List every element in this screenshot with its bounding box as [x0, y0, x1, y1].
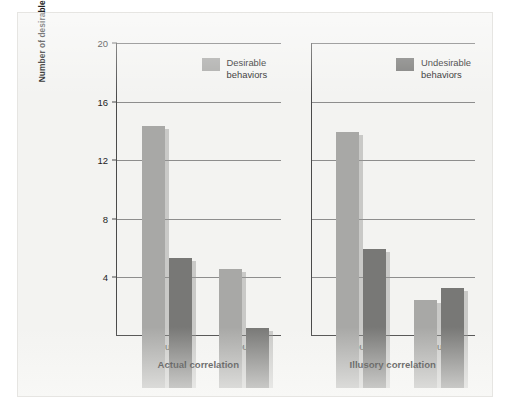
- y-tick-label-12: 12: [97, 155, 108, 166]
- gridline-20: [312, 43, 476, 44]
- panel-container: Group AGroup BActual correlationDesirabl…: [116, 43, 475, 388]
- y-axis-title: Number of desirable and undesirable beha…: [36, 0, 76, 83]
- plot-area: 48121620 Group AGroup BActual correlatio…: [90, 43, 475, 388]
- bar-fill: [142, 126, 165, 388]
- bar-fill: [246, 328, 269, 388]
- bar-group-a-desirable: [336, 132, 359, 388]
- panel-actual: Group AGroup BActual correlationDesirabl…: [116, 43, 281, 388]
- y-tick-label-4: 4: [103, 272, 108, 283]
- bar-group-a-desirable: [142, 126, 165, 388]
- bar-fill: [441, 288, 464, 388]
- bar-group-b-desirable: [414, 300, 437, 388]
- legend-swatch-desirable-icon: [202, 58, 220, 71]
- bar-group-b-desirable: [219, 269, 242, 388]
- y-tick-label-16: 16: [97, 96, 108, 107]
- bar-fill: [336, 132, 359, 388]
- legend-swatch-undesirable-icon: [396, 58, 414, 71]
- bar-group-container: [311, 95, 476, 388]
- panel-illusory: Group AGroup BIllusory correlationUndesi…: [311, 43, 476, 388]
- legend-label: Undesirable behaviors: [421, 57, 471, 80]
- bar-group-container: [116, 95, 281, 388]
- y-axis-ticks: 48121620: [90, 43, 112, 336]
- chart-figure: Number of desirable and undesirable beha…: [18, 13, 492, 396]
- y-tick-label-20: 20: [97, 38, 108, 49]
- bar-group-b-undesirable: [441, 288, 464, 388]
- bar-group-b-undesirable: [246, 328, 269, 388]
- bar-fill: [219, 269, 242, 388]
- legend-undesirable: Undesirable behaviors: [396, 57, 471, 80]
- bar-fill: [414, 300, 437, 388]
- legend-desirable: Desirable behaviors: [202, 57, 268, 80]
- y-tick-label-8: 8: [103, 213, 108, 224]
- panel-label: Illusory correlation: [311, 359, 476, 370]
- gridline-20: [117, 43, 281, 44]
- legend-label: Desirable behaviors: [227, 57, 268, 80]
- bar-shadow: [464, 291, 468, 388]
- panel-label: Actual correlation: [116, 359, 281, 370]
